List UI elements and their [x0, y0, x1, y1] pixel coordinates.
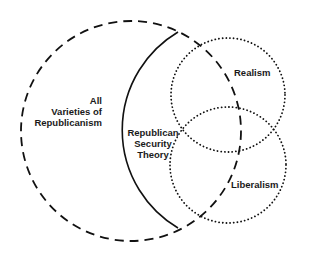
label-line: Realism [234, 67, 270, 78]
label-line: Liberalism [231, 179, 279, 190]
label-all-varieties-of-republicanism: All Varieties of Republicanism [34, 95, 102, 128]
label-republican-security-theory: Republican Security Theory [124, 127, 182, 160]
label-line: Theory [124, 149, 182, 160]
label-line: All [34, 95, 102, 106]
label-line: Republican [124, 127, 182, 138]
realism-circle [171, 38, 285, 152]
liberalism-circle [170, 107, 286, 223]
label-line: Varieties of [34, 106, 102, 117]
label-line: Security [124, 138, 182, 149]
label-realism: Realism [234, 67, 270, 78]
label-line: Republicanism [34, 117, 102, 128]
label-liberalism: Liberalism [231, 179, 279, 190]
